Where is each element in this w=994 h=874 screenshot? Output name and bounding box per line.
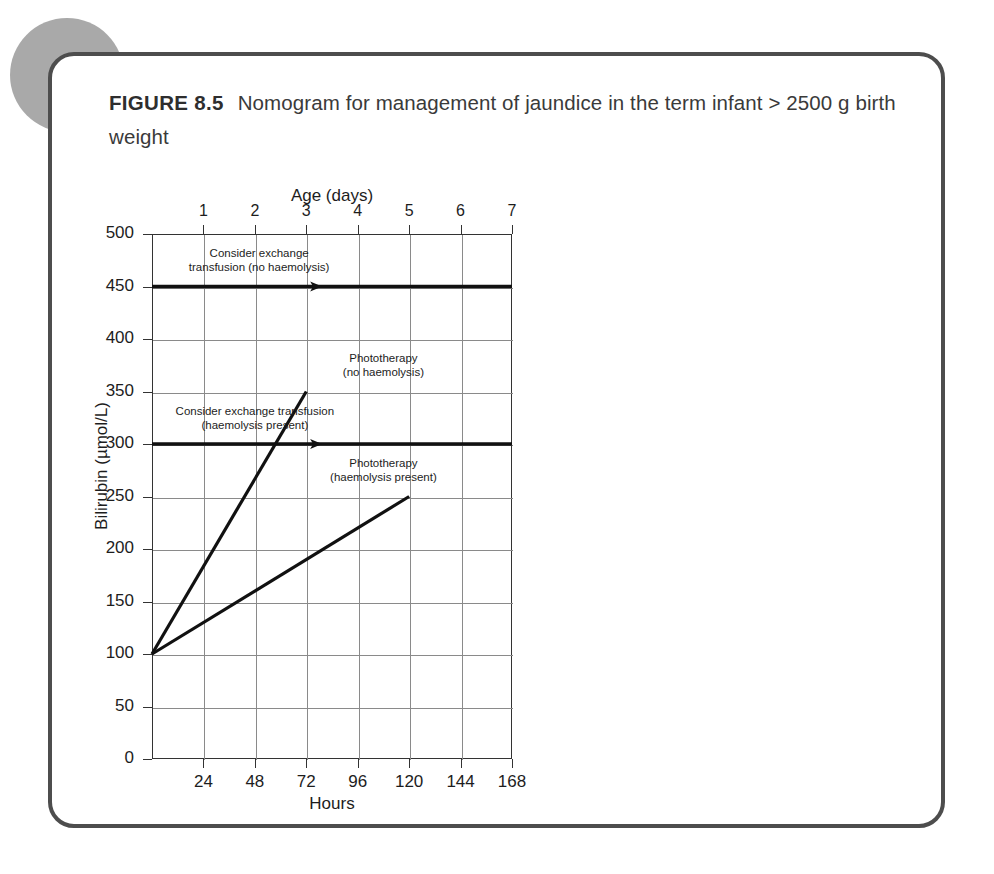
bottom-axis-tick-label: 24 (178, 772, 228, 792)
top-axis-tick (461, 225, 462, 234)
note-phototherapy-haemolysis-present: Phototherapy(haemolysis present) (330, 456, 437, 484)
y-axis-tick (143, 339, 152, 340)
bottom-axis-tick (306, 759, 307, 768)
y-axis-tick-label: 150 (80, 591, 134, 611)
y-axis-tick-label: 200 (80, 538, 134, 558)
y-axis-tick (143, 392, 152, 393)
annotation-line-2: (haemolysis present) (330, 470, 437, 484)
bottom-axis-tick-label: 144 (436, 772, 486, 792)
figure-card: FIGURE 8.5Nomogram for management of jau… (48, 52, 945, 828)
top-axis-tick (203, 225, 204, 234)
annotation-line-2: (no haemolysis) (343, 365, 424, 379)
gridline-horizontal (153, 498, 513, 499)
annotation-line-2: (haemolysis present) (176, 418, 335, 432)
gridline-horizontal (153, 393, 513, 394)
gridline-horizontal (153, 603, 513, 604)
y-axis-tick (143, 654, 152, 655)
y-axis-tick (143, 759, 152, 760)
gridline-vertical (204, 235, 205, 760)
bottom-axis-tick-label: 96 (333, 772, 383, 792)
top-axis-tick (358, 225, 359, 234)
note-phototherapy-no-haemolysis: Phototherapy(no haemolysis) (343, 351, 424, 379)
y-axis-tick (143, 707, 152, 708)
annotation-line-1: Consider exchange transfusion (176, 404, 335, 418)
y-axis-tick (143, 497, 152, 498)
bottom-axis-tick-label: 168 (487, 772, 537, 792)
y-axis-tick-label: 500 (80, 223, 134, 243)
annotation-line-1: Phototherapy (343, 351, 424, 365)
y-axis-tick (143, 234, 152, 235)
gridline-horizontal (153, 340, 513, 341)
top-axis-tick-label: 1 (183, 202, 223, 220)
gridline-horizontal (153, 655, 513, 656)
annotation-line-1: Consider exchange (189, 246, 330, 260)
gridline-vertical (462, 235, 463, 760)
bottom-axis-tick (409, 759, 410, 768)
y-axis-tick-label: 0 (80, 748, 134, 768)
plot-area (152, 234, 512, 759)
top-axis-tick (255, 225, 256, 234)
bottom-axis-tick (203, 759, 204, 768)
y-axis-tick-label: 450 (80, 276, 134, 296)
y-axis-tick-label: 300 (80, 433, 134, 453)
annotation-line-2: transfusion (no haemolysis) (189, 260, 330, 274)
bottom-axis-tick-label: 120 (384, 772, 434, 792)
note-exchange-haemolysis-present: Consider exchange transfusion(haemolysis… (176, 404, 335, 432)
y-axis-tick (143, 287, 152, 288)
top-axis-tick (409, 225, 410, 234)
gridline-horizontal (153, 708, 513, 709)
y-axis-tick-label: 250 (80, 486, 134, 506)
y-axis-tick-label: 50 (80, 696, 134, 716)
gridline-vertical (410, 235, 411, 760)
bottom-axis-tick (255, 759, 256, 768)
top-axis-tick (512, 225, 513, 234)
y-axis-tick-label: 100 (80, 643, 134, 663)
nomogram-chart: Age (days) Hours Bilirubin (µmol/L) 0501… (52, 56, 949, 832)
top-axis-tick-label: 7 (492, 202, 532, 220)
top-axis-tick (306, 225, 307, 234)
y-axis-tick-label: 400 (80, 328, 134, 348)
bottom-axis-tick (512, 759, 513, 768)
y-axis-tick (143, 549, 152, 550)
y-axis-tick (143, 602, 152, 603)
top-axis-tick-label: 2 (235, 202, 275, 220)
gridline-vertical (359, 235, 360, 760)
bottom-axis-tick (358, 759, 359, 768)
bottom-axis-title: Hours (152, 794, 512, 814)
bottom-axis-tick-label: 72 (281, 772, 331, 792)
note-exchange-no-haemolysis: Consider exchangetransfusion (no haemoly… (189, 246, 330, 274)
y-axis-tick-label: 350 (80, 381, 134, 401)
gridline-vertical (307, 235, 308, 760)
top-axis-tick-label: 4 (338, 202, 378, 220)
y-axis-tick (143, 444, 152, 445)
annotation-line-1: Phototherapy (330, 456, 437, 470)
gridline-vertical (256, 235, 257, 760)
bottom-axis-tick (461, 759, 462, 768)
gridline-horizontal (153, 445, 513, 446)
gridline-horizontal (153, 288, 513, 289)
top-axis-tick-label: 6 (441, 202, 481, 220)
top-axis-tick-label: 5 (389, 202, 429, 220)
bottom-axis-tick-label: 48 (230, 772, 280, 792)
top-axis-tick-label: 3 (286, 202, 326, 220)
gridline-horizontal (153, 550, 513, 551)
